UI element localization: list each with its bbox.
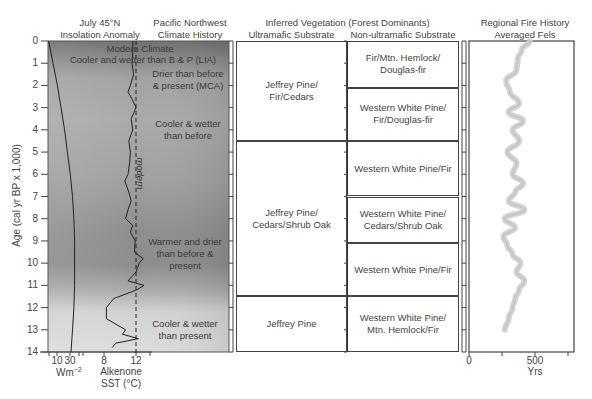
sst-axis-label-line2: SST (°C) (96, 378, 146, 390)
vegetation-cell-non-ultramafic: Fir/Mtn. Hemlock/Douglas-fir (347, 41, 459, 88)
climate-period-label-line: than present (140, 330, 230, 342)
fire-tick-0: 0 (461, 355, 477, 366)
vegetation-cell-ultramafic: Jeffrey Pine/Fir/Cedars (236, 41, 347, 141)
sst-tick-12: 12 (128, 355, 144, 366)
vegetation-cell-ultramafic: Jeffrey Pine/Cedars/Shrub Oak (236, 141, 347, 297)
vegetation-cell-line: Western White Pine/ (360, 312, 446, 324)
climate-period-label-line: Drier than before (148, 68, 228, 80)
climate-period-label-line: Cooler & wetter (140, 318, 230, 330)
vegetation-cell-text: Fir/Mtn. Hemlock/Douglas-fir (366, 52, 440, 76)
vegetation-cell-line: Western White Pine/Fir (354, 264, 452, 276)
climate-period-label-line: Cooler & wetter (148, 118, 228, 130)
vegetation-cell-line: Cedars/Shrub Oak (252, 219, 331, 231)
vegetation-cell-line: Fir/Mtn. Hemlock/ (366, 52, 440, 64)
vegetation-cell-line: Western White Pine/ (360, 208, 446, 220)
climate-period-label-line: present (140, 260, 230, 272)
vegetation-cell-text: Jeffrey Pine/Cedars/Shrub Oak (252, 207, 331, 231)
climate-period-label: Warmer and drierthan before &present (140, 236, 230, 272)
vegetation-cell-non-ultramafic: Western White Pine/Fir (347, 141, 459, 197)
vegetation-cell-text: Western White Pine/Cedars/Shrub Oak (360, 208, 446, 232)
climate-period-label-line: Warmer and drier (140, 236, 230, 248)
insolation-tick-30: 30 (62, 355, 78, 366)
climate-period-label-line: & present (MCA) (148, 80, 228, 92)
vegetation-cell-line: Fir/Douglas-fir (360, 114, 446, 126)
sst-axis-label-line1: Alkenone (96, 366, 146, 378)
fire-tick-500: 500 (523, 355, 547, 366)
vegetation-cell-line: Jeffrey Pine/ (265, 79, 318, 91)
sst-axis-label: Alkenone SST (°C) (96, 366, 146, 390)
insolation-unit-exponent: −2 (74, 366, 82, 373)
vegetation-cell-ultramafic: Jeffrey Pine (236, 296, 347, 352)
vegetation-cell-line: Douglas-fir (366, 64, 440, 76)
insolation-unit: Wm (56, 367, 74, 378)
vegetation-cell-text: Jeffrey Pine/Fir/Cedars (265, 79, 318, 103)
vegetation-cell-non-ultramafic: Western White Pine/Cedars/Shrub Oak (347, 197, 459, 244)
vegetation-cell-non-ultramafic: Western White Pine/Mtn. Hemlock/Fir (347, 296, 459, 352)
vegetation-cell-non-ultramafic: Western White Pine/Fir (347, 243, 459, 296)
vegetation-cell-non-ultramafic: Western White Pine/Fir/Douglas-fir (347, 88, 459, 141)
vegetation-cell-line: Jeffrey Pine/ (252, 207, 331, 219)
vegetation-cell-text: Western White Pine/Fir (354, 264, 452, 276)
vegetation-cell-line: Jeffrey Pine (267, 318, 317, 330)
vegetation-cell-line: Mtn. Hemlock/Fir (360, 324, 446, 336)
fire-axis-label: Yrs (520, 366, 550, 377)
climate-period-label: Cooler & wetterthan present (140, 318, 230, 342)
vegetation-cell-text: Jeffrey Pine (267, 318, 317, 330)
modern-reference-label: modern (135, 154, 146, 194)
climate-period-label: Cooler and wetter than B & P (LIA) (58, 54, 228, 66)
vegetation-cell-line: Fir/Cedars (265, 91, 318, 103)
vegetation-cell-text: Western White Pine/Mtn. Hemlock/Fir (360, 312, 446, 336)
climate-period-label-line: than before & (140, 248, 230, 260)
vegetation-cell-text: Western White Pine/Fir/Douglas-fir (360, 102, 446, 126)
vegetation-cell-line: Western White Pine/ (360, 102, 446, 114)
insolation-unit-label: Wm−2 (56, 366, 82, 378)
climate-period-label-line: Cooler and wetter than B & P (LIA) (58, 54, 228, 66)
climate-period-label: Cooler & wetterthan before (148, 118, 228, 142)
climate-period-label-line: than before (148, 130, 228, 142)
vegetation-cell-line: Western White Pine/Fir (354, 163, 452, 175)
climate-period-label: Drier than before& present (MCA) (148, 68, 228, 92)
sst-tick-8: 8 (96, 355, 112, 366)
vegetation-cell-line: Cedars/Shrub Oak (360, 220, 446, 232)
vegetation-cell-text: Western White Pine/Fir (354, 163, 452, 175)
